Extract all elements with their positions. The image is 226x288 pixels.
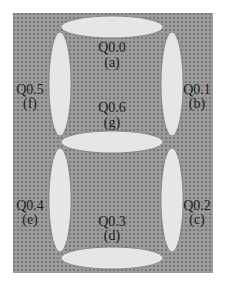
seven-segment-diagram: Q0.0 (a) Q0.1 (b) Q0.2 (c) Q0.3 (d) Q0.4… <box>0 0 226 288</box>
label-f-address: Q0.5 <box>16 82 44 97</box>
segment-c <box>161 148 183 252</box>
label-d-address: Q0.3 <box>98 214 126 229</box>
segment-d <box>61 247 163 269</box>
label-e-address: Q0.4 <box>16 198 44 213</box>
segment-b <box>161 32 183 136</box>
segment-e <box>49 148 71 252</box>
segment-a <box>61 16 163 38</box>
label-g-letter: (g) <box>104 115 121 131</box>
label-e-letter: (e) <box>22 212 38 228</box>
label-c-address: Q0.2 <box>183 198 211 213</box>
label-b-letter: (b) <box>189 96 206 112</box>
label-a-address: Q0.0 <box>98 40 126 55</box>
label-b-address: Q0.1 <box>183 82 211 97</box>
segment-f <box>49 32 71 136</box>
label-a-letter: (a) <box>104 55 120 71</box>
label-g-address: Q0.6 <box>98 100 126 115</box>
label-c-letter: (c) <box>189 212 205 228</box>
segment-g <box>61 131 163 153</box>
label-d-letter: (d) <box>104 228 121 244</box>
label-f-letter: (f) <box>23 96 37 112</box>
